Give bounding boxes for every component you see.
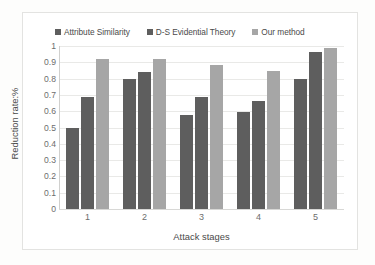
bar <box>180 115 193 209</box>
y-axis-tick-label: 0.6 <box>44 106 56 116</box>
bar <box>153 59 166 209</box>
y-axis-tick-label: 0.8 <box>44 74 56 84</box>
chart-legend: Attribute Similarity D-S Evidential Theo… <box>55 24 350 40</box>
bar <box>195 97 208 209</box>
x-axis-tick-label: 5 <box>296 212 336 222</box>
y-axis-tick-labels: 10.90.80.70.60.50.40.30.20.10 <box>30 46 56 209</box>
bar <box>294 79 307 209</box>
bar <box>138 72 151 209</box>
x-axis-title: Attack stages <box>59 231 344 242</box>
x-axis-tick-label: 2 <box>125 212 165 222</box>
x-axis-tick-label: 3 <box>182 212 222 222</box>
x-axis-tick-labels: 12345 <box>59 212 344 226</box>
bar-group <box>294 46 337 209</box>
bar <box>252 101 265 209</box>
legend-label-series-2: D-S Evidential Theory <box>156 27 236 37</box>
bar <box>81 97 94 209</box>
y-axis-tick-label: 1 <box>51 41 56 51</box>
bar-group <box>66 46 109 209</box>
legend-item-our-method: Our method <box>252 27 304 37</box>
bar <box>309 52 322 209</box>
bar <box>237 112 250 209</box>
plot-area <box>59 46 344 209</box>
y-axis-tick-label: 0 <box>51 204 56 214</box>
bar <box>66 128 79 210</box>
legend-label-series-1: Attribute Similarity <box>64 27 130 37</box>
legend-item-ds-evidential-theory: D-S Evidential Theory <box>147 27 236 37</box>
bar-chart: Attribute Similarity D-S Evidential Theo… <box>0 0 375 265</box>
bar-group <box>237 46 280 209</box>
x-axis-tick-label: 1 <box>68 212 108 222</box>
y-axis-tick-label: 0.1 <box>44 188 56 198</box>
bar <box>267 71 280 209</box>
y-axis-tick-label: 0.9 <box>44 57 56 67</box>
legend-swatch-icon-series-1 <box>55 29 61 35</box>
y-axis-tick-label: 0.2 <box>44 171 56 181</box>
legend-item-attribute-similarity: Attribute Similarity <box>55 27 130 37</box>
y-axis-tick-label: 0.4 <box>44 139 56 149</box>
y-axis-tick-label: 0.5 <box>44 123 56 133</box>
x-axis-tick-label: 4 <box>239 212 279 222</box>
bar-group <box>180 46 223 209</box>
y-axis-tick-label: 0.7 <box>44 90 56 100</box>
bar-group <box>123 46 166 209</box>
bar-groups <box>59 46 344 209</box>
bar <box>123 79 136 209</box>
bar <box>324 48 337 209</box>
y-axis-title: Reduction rate:% <box>9 69 20 179</box>
y-axis-tick-label: 0.3 <box>44 155 56 165</box>
bar <box>96 59 109 209</box>
bar <box>210 65 223 209</box>
legend-swatch-icon-series-3 <box>252 29 258 35</box>
legend-swatch-icon-series-2 <box>147 29 153 35</box>
legend-label-series-3: Our method <box>261 27 304 37</box>
